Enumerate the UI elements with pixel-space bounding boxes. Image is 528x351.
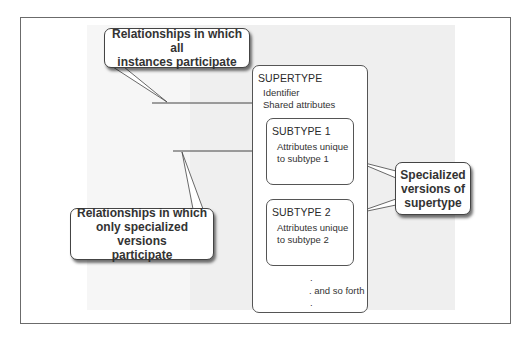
callout-all-instances: Relationships in which all instances par… xyxy=(104,28,250,68)
supertype-identifier: Identifier xyxy=(263,87,299,99)
subtype-1-attr-line2: to subtype 1 xyxy=(277,153,329,165)
callout-specialized-relationships: Relationships in which only specialized … xyxy=(70,208,214,260)
callout-specialized-versions: Specialized versions of supertype xyxy=(395,162,471,215)
continuation-dot-top: . xyxy=(310,272,313,283)
subtype-1-attr-line1: Attributes unique xyxy=(277,141,348,153)
subtype-1-title: SUBTYPE 1 xyxy=(272,125,331,137)
subtype-2-box: SUBTYPE 2 Attributes unique to subtype 2 xyxy=(266,199,354,266)
subtype-2-attr-line2: to subtype 2 xyxy=(277,234,329,246)
continuation-dot-bottom: . xyxy=(310,297,313,308)
subtype-2-attr-line1: Attributes unique xyxy=(277,222,348,234)
subtype-1-box: SUBTYPE 1 Attributes unique to subtype 1 xyxy=(266,118,354,185)
supertype-title: SUPERTYPE xyxy=(258,72,322,84)
continuation-label: . and so forth xyxy=(309,285,364,296)
subtype-2-title: SUBTYPE 2 xyxy=(272,206,331,218)
supertype-shared-attributes: Shared attributes xyxy=(263,99,335,111)
